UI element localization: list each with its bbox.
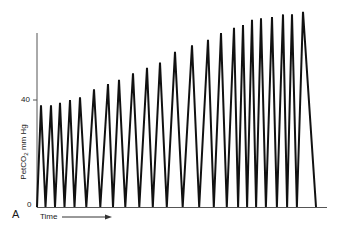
petco2-trace bbox=[37, 12, 316, 207]
panel-label: A bbox=[12, 208, 19, 220]
y-tick-label-40: 40 bbox=[21, 95, 30, 104]
y-axis-label: PetCO2 mm Hg bbox=[19, 124, 30, 179]
time-arrow bbox=[62, 215, 112, 220]
y-tick-label-0: 0 bbox=[27, 200, 31, 209]
x-axis-label: Time bbox=[40, 212, 57, 221]
chart-canvas bbox=[0, 0, 340, 230]
